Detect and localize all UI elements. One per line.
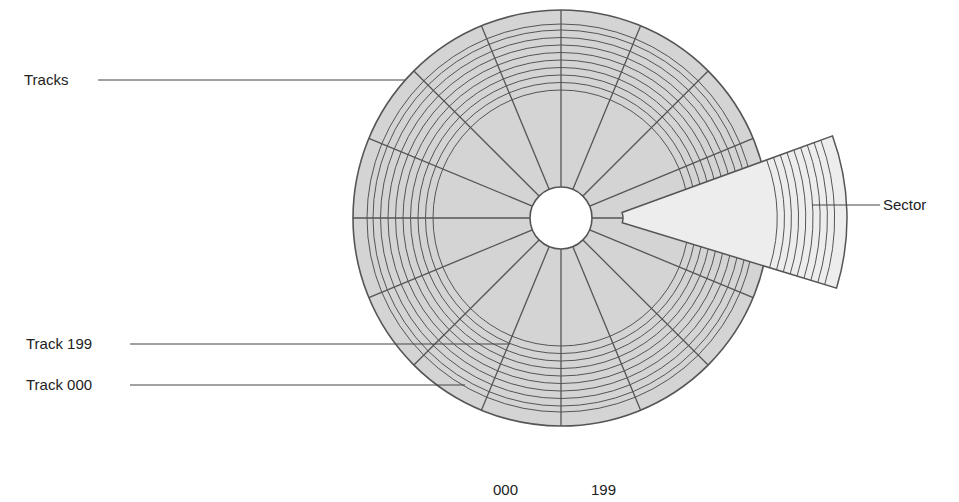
track-199-label: Track 199	[26, 335, 92, 353]
disk-diagram	[0, 0, 959, 502]
bottom-000-label: 000	[493, 481, 518, 499]
tracks-label: Tracks	[24, 71, 68, 89]
bottom-199-label: 199	[591, 481, 616, 499]
sector-label: Sector	[883, 196, 926, 214]
track-000-label: Track 000	[26, 376, 92, 394]
